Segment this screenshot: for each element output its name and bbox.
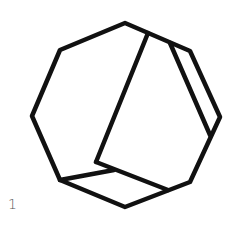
lower-left-edge — [60, 170, 114, 180]
inner-edges — [60, 33, 210, 190]
inner-bottom-edge — [96, 162, 168, 190]
diagonal-edge — [96, 33, 148, 162]
polyhedron-figure — [0, 0, 241, 231]
figure-number-label: 1 — [8, 196, 17, 212]
strip-inner-edge — [170, 43, 210, 135]
